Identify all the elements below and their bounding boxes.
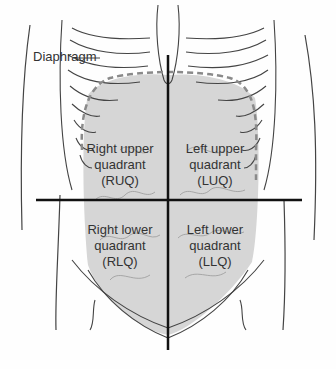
diaphragm-label: Diaphragm (33, 49, 97, 65)
ruq-abbr: (RUQ) (70, 173, 170, 189)
ruq-line2: quadrant (70, 157, 170, 173)
rlq-line2: quadrant (70, 238, 170, 254)
luq-line1: Left upper (165, 141, 265, 157)
abdomen-area (84, 74, 259, 335)
quadrant-llq-label: Left lower quadrant (LLQ) (165, 222, 265, 270)
luq-abbr: (LUQ) (165, 173, 265, 189)
rlq-abbr: (RLQ) (70, 254, 170, 270)
abdominal-quadrants-diagram: Diaphragm Right upper quadrant (RUQ) Lef… (0, 0, 336, 369)
ruq-line1: Right upper (70, 141, 170, 157)
quadrant-rlq-label: Right lower quadrant (RLQ) (70, 222, 170, 270)
quadrant-ruq-label: Right upper quadrant (RUQ) (70, 141, 170, 189)
rlq-line1: Right lower (70, 222, 170, 238)
quadrant-luq-label: Left upper quadrant (LUQ) (165, 141, 265, 189)
luq-line2: quadrant (165, 157, 265, 173)
llq-line1: Left lower (165, 222, 265, 238)
llq-abbr: (LLQ) (165, 254, 265, 270)
llq-line2: quadrant (165, 238, 265, 254)
